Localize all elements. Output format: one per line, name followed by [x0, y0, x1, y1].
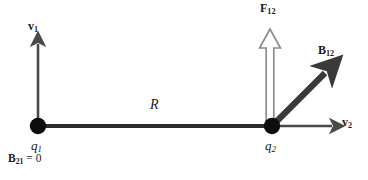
- label-separation-R: R: [150, 98, 159, 112]
- label-F12-subscript: 12: [267, 7, 275, 16]
- label-B12-symbol: B: [318, 43, 326, 57]
- label-charge-q2: q2: [265, 139, 276, 154]
- magnetic-field-vector-B12-shaft: [272, 73, 325, 126]
- charge-dot-q2: [264, 118, 280, 134]
- label-velocity-v1: v1: [28, 20, 38, 34]
- label-magnetic-field-B12: B12: [318, 44, 334, 58]
- label-velocity-v2: v2: [342, 116, 352, 130]
- label-q2-subscript: 2: [272, 144, 276, 154]
- label-force-F12: F12: [260, 2, 276, 16]
- label-B12-subscript: 12: [326, 49, 334, 58]
- annotation-B21-equals: = 0: [23, 152, 41, 164]
- diagram-canvas: [0, 0, 368, 180]
- label-v1-subscript: 1: [34, 25, 38, 34]
- annotation-B21-symbol: B: [8, 152, 16, 164]
- charge-dot-q1: [30, 118, 46, 134]
- force-vector-F12-hollow-arrow: [260, 29, 281, 127]
- physics-diagram: v1 v2 B12 F12 R q1 q2 B21 = 0: [0, 0, 368, 180]
- annotation-B21-equals-zero: B21 = 0: [8, 153, 41, 166]
- label-v2-subscript: 2: [348, 121, 352, 130]
